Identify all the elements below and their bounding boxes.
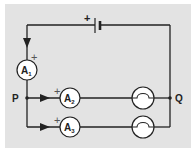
battery-plus-label: + [84,12,90,24]
current-arrow-branch2-icon [40,94,50,102]
battery-icon [95,18,100,33]
ammeter-a3: A3 + [54,114,80,137]
junction-p-label: P [12,93,19,104]
junction-p-dot [25,96,29,100]
ammeter-a1-plus-label: + [31,51,37,63]
circuit-diagram: + P Q A1 + A2 + A3 + [0,0,195,152]
junction-q-dot [168,96,172,100]
current-arrow-branch3-icon [40,123,50,131]
lamp-1-icon [132,87,154,109]
ammeter-a2: A2 + [54,85,80,108]
lamp-2-icon [132,116,154,138]
ammeter-a3-plus-label: + [54,114,60,126]
ammeter-a2-plus-label: + [54,85,60,97]
current-arrow-down-icon [23,38,31,48]
junction-q-label: Q [175,93,183,104]
